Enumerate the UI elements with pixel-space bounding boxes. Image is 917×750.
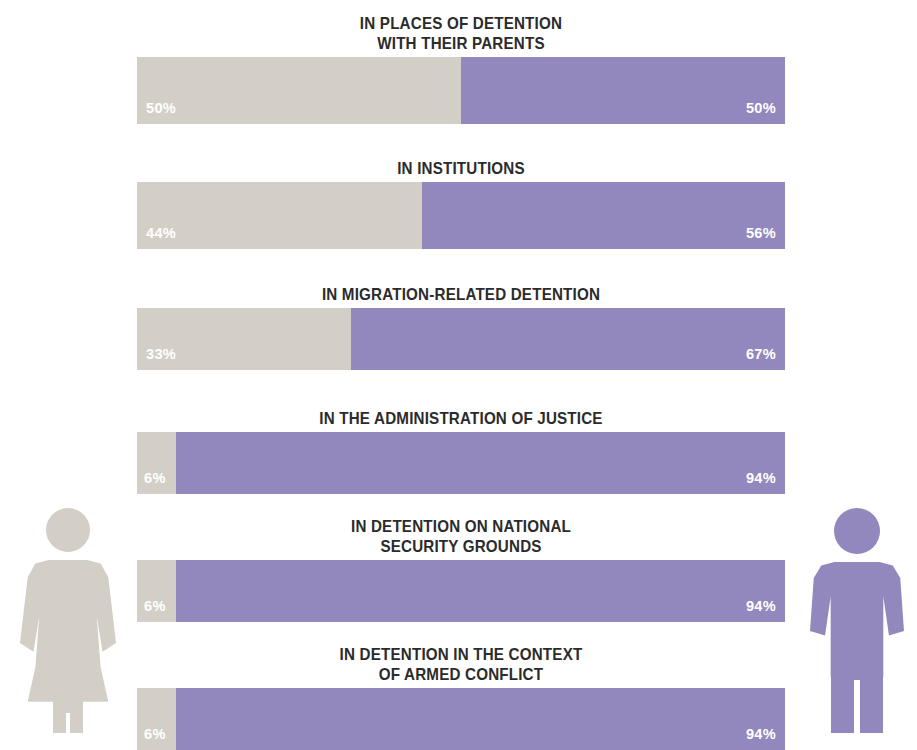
bar-segment-girls-label: 6% [144, 726, 166, 742]
bar-segment-girls: 6% [137, 432, 176, 494]
bar-segment-boys: 94% [176, 688, 785, 750]
bar-segment-boys: 50% [461, 57, 785, 124]
male-figure-body [810, 562, 904, 677]
bar-track: 50%50% [137, 57, 785, 124]
bar-segment-girls-label: 44% [146, 225, 176, 241]
bar-segment-girls-label: 6% [144, 470, 166, 486]
bar-segment-boys-label: 50% [746, 100, 776, 116]
bar-segment-boys: 94% [176, 432, 785, 494]
male-figure-head [834, 508, 880, 554]
bar-segment-boys: 67% [351, 308, 785, 370]
bar-row-title: IN PLACES OF DETENTION WITH THEIR PARENT… [163, 8, 759, 53]
bar-segment-boys-label: 94% [746, 598, 776, 614]
bar-row-title: IN DETENTION IN THE CONTEXT OF ARMED CON… [163, 620, 759, 684]
bar-segment-girls: 6% [137, 688, 176, 750]
bar-track: 6%94% [137, 560, 785, 622]
female-figure-leg-gap [66, 713, 70, 733]
bar-segment-girls: 44% [137, 182, 422, 249]
bar-row: IN MIGRATION-RELATED DETENTION33%67% [137, 285, 785, 370]
bar-row-title: IN THE ADMINISTRATION OF JUSTICE [163, 410, 759, 428]
bar-track: 33%67% [137, 308, 785, 370]
bar-row: IN DETENTION ON NATIONAL SECURITY GROUND… [137, 513, 785, 622]
male-figure-icon [810, 508, 906, 733]
bar-segment-girls-label: 33% [146, 346, 176, 362]
male-figure-leg-gap [854, 680, 860, 733]
bar-segment-boys-label: 67% [746, 346, 776, 362]
bar-row-title: IN DETENTION ON NATIONAL SECURITY GROUND… [163, 513, 759, 556]
bar-track: 44%56% [137, 182, 785, 249]
bar-track: 6%94% [137, 688, 785, 750]
bar-row: IN PLACES OF DETENTION WITH THEIR PARENT… [137, 8, 785, 124]
bar-segment-girls: 33% [137, 308, 351, 370]
bar-segment-girls-label: 50% [146, 100, 176, 116]
bar-row-title: IN INSTITUTIONS [163, 157, 759, 178]
female-figure-icon [20, 508, 116, 733]
bar-segment-boys-label: 94% [746, 470, 776, 486]
bar-segment-girls-label: 6% [144, 598, 166, 614]
bar-segment-girls: 50% [137, 57, 461, 124]
bar-row: IN DETENTION IN THE CONTEXT OF ARMED CON… [137, 620, 785, 750]
bar-row-title: IN MIGRATION-RELATED DETENTION [163, 285, 759, 304]
bar-track: 6%94% [137, 432, 785, 494]
bar-row: IN THE ADMINISTRATION OF JUSTICE6%94% [137, 410, 785, 494]
bar-segment-boys: 94% [176, 560, 785, 622]
bar-segment-boys-label: 56% [746, 225, 776, 241]
bar-segment-girls: 6% [137, 560, 176, 622]
bar-segment-boys: 56% [422, 182, 785, 249]
bar-row: IN INSTITUTIONS44%56% [137, 157, 785, 249]
female-figure-head [46, 508, 90, 552]
bar-segment-boys-label: 94% [746, 726, 776, 742]
